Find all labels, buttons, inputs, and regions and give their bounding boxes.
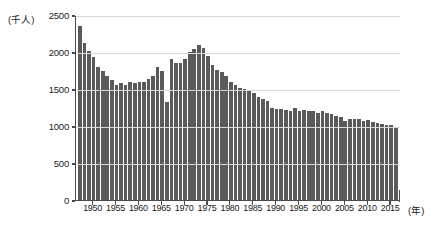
x-axis-tick-label: 1970 [175,203,194,213]
x-axis-tick-mark [298,201,299,205]
bar [138,82,142,200]
x-axis-tick-label: 1990 [266,203,285,213]
x-axis-tick-mark [161,201,162,205]
bar [142,82,146,200]
bar [229,82,233,200]
gridline-1500 [76,90,400,91]
bar [124,85,128,200]
bar [174,63,178,200]
bar [156,67,160,200]
x-axis-end-cap [399,190,400,202]
bar [325,113,329,200]
bar [316,113,320,200]
x-axis-tick-label: 1955 [106,203,125,213]
x-axis-tick-mark [115,201,116,205]
bar [298,111,302,200]
y-axis-tick-mark [72,15,76,16]
bar [165,102,169,200]
bar [188,52,192,200]
x-axis-tick-mark [229,201,230,205]
y-axis-tick-label: 1000 [11,121,69,132]
bar [380,124,384,200]
x-axis-tick-label: 1960 [129,203,148,213]
bar [321,111,325,200]
plot-area [75,16,400,201]
bar [270,108,274,201]
y-axis-tick-mark [72,126,76,127]
y-axis-tick-label: 2000 [11,47,69,58]
bar [348,119,352,200]
bar [307,111,311,200]
x-axis-tick-mark [184,201,185,205]
bar [243,89,247,200]
y-axis-tick-mark [72,163,76,164]
x-axis-tick-mark [321,201,322,205]
bar [366,120,370,200]
y-axis-tick-label: 500 [11,158,69,169]
bar [92,57,96,200]
x-axis-tick-label: 1965 [152,203,171,213]
bar [110,80,114,200]
gridline-2500 [76,16,400,17]
bar [115,85,119,200]
x-axis-tick-label: 1985 [243,203,262,213]
x-axis-tick-label: 2015 [381,203,400,213]
bar [334,116,338,200]
births-bar-chart: (千人) 05001000150020002500 19501955196019… [0,0,439,226]
bar [247,90,251,200]
y-axis-tick-label: 0 [11,195,69,206]
x-axis-tick-mark [389,201,390,205]
bar [151,76,155,200]
bar [339,117,343,200]
x-axis-tick-label: 2010 [358,203,377,213]
bar [289,111,293,200]
x-axis-tick-label: 1950 [83,203,102,213]
x-axis-tick-label: 1975 [198,203,217,213]
y-axis-tick-label: 1500 [11,84,69,95]
x-axis-tick-mark [206,201,207,205]
y-axis-tick-mark [72,89,76,90]
x-axis-tick-mark [344,201,345,205]
bar [147,79,151,200]
x-axis-tick-mark [275,201,276,205]
bar [302,110,306,200]
bar [224,76,228,200]
x-axis-tick-label: 2005 [335,203,354,213]
bar [252,93,256,200]
x-axis-tick-mark [367,201,368,205]
bar [357,119,361,200]
gridline-2000 [76,53,400,54]
bar [376,123,380,200]
bar [105,76,109,200]
bar [133,83,137,200]
bar [293,108,297,200]
y-axis-tick-label: 2500 [11,10,69,21]
bar [385,125,389,200]
bar [87,51,91,200]
bar [83,43,87,200]
bar [192,49,196,200]
bar [261,99,265,200]
bar [179,63,183,200]
x-axis-tick-mark [252,201,253,205]
x-axis-tick-mark [92,201,93,205]
bar [266,101,270,200]
bar [362,121,366,200]
bar [279,109,283,200]
bar [211,65,215,200]
gridline-1000 [76,127,400,128]
gridline-500 [76,164,400,165]
x-axis-tick-label: 1980 [220,203,239,213]
x-axis-unit-label: (年) [408,203,424,217]
bar [197,45,201,200]
bar [170,59,174,200]
bar [202,48,206,200]
bar-series [76,16,400,200]
bar [343,121,347,200]
bar [183,59,187,200]
bar [371,122,375,200]
bar [257,97,261,200]
bar [275,109,279,200]
y-axis-tick-mark [72,200,76,201]
bar [96,67,100,200]
